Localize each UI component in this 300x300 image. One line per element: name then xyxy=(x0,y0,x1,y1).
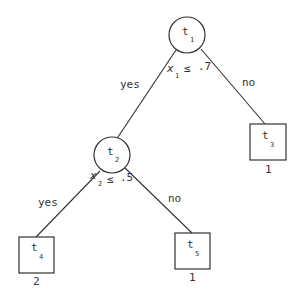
decision-tree-diagram: yes no yes no x 1 ≤ .7 x 2 ≤ .5 t 1 t 2 … xyxy=(0,0,300,300)
svg-text:1: 1 xyxy=(190,36,194,44)
svg-text:t: t xyxy=(187,238,194,251)
svg-text:t: t xyxy=(262,129,269,142)
svg-text:x: x xyxy=(166,62,174,75)
svg-text:5: 5 xyxy=(195,250,199,258)
svg-text:3: 3 xyxy=(270,141,274,149)
svg-text:≤: ≤ xyxy=(184,62,191,75)
edge-t2-t5 xyxy=(125,168,192,233)
svg-text:2: 2 xyxy=(98,180,102,188)
node-t2: t 2 xyxy=(94,137,130,173)
leaf-t5-class: 1 xyxy=(189,271,196,284)
svg-text:t: t xyxy=(182,25,189,38)
svg-text:.5: .5 xyxy=(120,171,133,184)
svg-text:2: 2 xyxy=(115,156,119,164)
split-condition-t1: x 1 ≤ .7 xyxy=(166,60,211,80)
svg-text:t: t xyxy=(107,145,114,158)
svg-text:t: t xyxy=(31,241,38,254)
svg-text:.7: .7 xyxy=(198,60,211,73)
svg-text:4: 4 xyxy=(39,253,43,261)
svg-text:1: 1 xyxy=(175,72,179,80)
node-t1: t 1 xyxy=(169,17,205,53)
svg-text:x: x xyxy=(89,169,97,182)
edge-label-t1-t3: no xyxy=(242,76,255,89)
leaf-t3-class: 1 xyxy=(265,163,272,176)
leaf-t4-class: 2 xyxy=(33,275,40,288)
leaf-t5: t 5 1 xyxy=(175,233,210,284)
leaf-t3: t 3 1 xyxy=(250,124,286,176)
edge-label-t2-t4: yes xyxy=(38,196,58,209)
edge-label-t1-t2: yes xyxy=(120,78,140,91)
leaf-t4: t 4 2 xyxy=(19,237,54,288)
svg-text:≤: ≤ xyxy=(107,173,114,186)
edge-label-t2-t5: no xyxy=(168,192,181,205)
